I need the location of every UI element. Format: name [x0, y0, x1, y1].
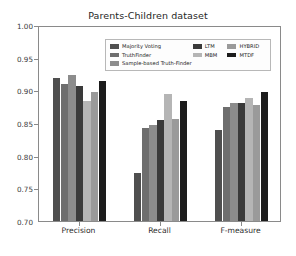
legend-label: HYBRID — [239, 43, 259, 50]
legend-column-2: LTMMBM — [193, 43, 228, 67]
y-tick-label: 0.70 — [0, 218, 38, 227]
legend-label: Majority Voting — [122, 43, 161, 50]
legend-swatch-icon — [110, 53, 119, 58]
bar — [142, 128, 150, 221]
legend-swatch-icon — [110, 61, 119, 66]
legend-item: MBM — [193, 52, 228, 59]
bar — [245, 98, 253, 221]
plot-area: Majority VotingTruthFinderSample-based T… — [38, 26, 281, 222]
legend-label: MTDF — [239, 52, 254, 59]
bar — [164, 94, 172, 221]
chart-figure: Parents-Children dataset 1.000.950.900.8… — [0, 0, 296, 256]
x-tick-label: F-measure — [220, 226, 260, 235]
legend-swatch-icon — [227, 44, 236, 49]
bar — [149, 125, 157, 221]
y-tick-label: 0.80 — [0, 152, 38, 161]
bar — [83, 101, 91, 221]
legend-label: Sample-based Truth-Finder — [122, 60, 192, 67]
bar — [223, 107, 231, 221]
bar — [261, 92, 269, 221]
legend-item: Sample-based Truth-Finder — [110, 60, 193, 67]
legend-swatch-icon — [193, 53, 202, 58]
legend-label: MBM — [205, 52, 218, 59]
x-tick-label: Recall — [148, 226, 171, 235]
bar — [99, 81, 107, 221]
legend-label: LTM — [205, 43, 215, 50]
legend-swatch-icon — [110, 44, 119, 49]
legend-item: MTDF — [227, 52, 266, 59]
bar — [230, 103, 238, 221]
y-tick-label: 0.85 — [0, 120, 38, 129]
bar — [76, 86, 84, 221]
chart-legend: Majority VotingTruthFinderSample-based T… — [105, 39, 271, 71]
bar — [134, 173, 142, 221]
bar — [172, 119, 180, 221]
x-tick-label: Precision — [62, 226, 96, 235]
bar — [180, 101, 188, 221]
legend-item: TruthFinder — [110, 52, 193, 59]
bar — [53, 78, 61, 221]
legend-item: LTM — [193, 43, 228, 50]
legend-swatch-icon — [227, 53, 236, 58]
legend-column-1: Majority VotingTruthFinderSample-based T… — [110, 43, 193, 67]
y-tick-label: 0.90 — [0, 87, 38, 96]
legend-item: Majority Voting — [110, 43, 193, 50]
legend-label: TruthFinder — [122, 52, 151, 59]
legend-swatch-icon — [193, 44, 202, 49]
legend-item: HYBRID — [227, 43, 266, 50]
bar — [238, 103, 246, 221]
bar — [215, 130, 223, 221]
bar — [253, 105, 261, 221]
bar — [61, 84, 69, 221]
y-tick-label: 0.95 — [0, 54, 38, 63]
y-tick-label: 1.00 — [0, 22, 38, 31]
bar — [68, 75, 76, 221]
bar — [91, 92, 99, 221]
chart-title: Parents-Children dataset — [0, 10, 296, 21]
legend-column-3: HYBRIDMTDF — [227, 43, 266, 67]
y-tick-label: 0.75 — [0, 185, 38, 194]
bar — [157, 120, 165, 221]
